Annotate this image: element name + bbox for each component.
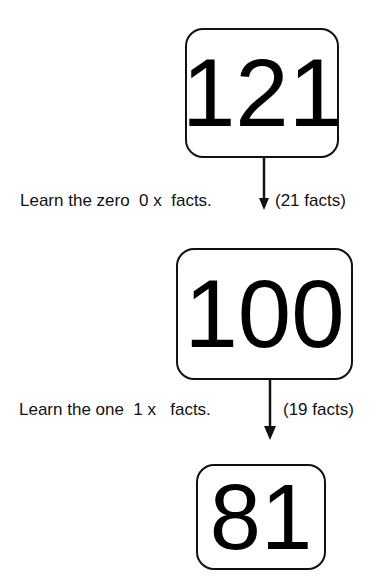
step-1-label: Learn the zero 0 x facts. [20,191,212,211]
count-box-81: 81 [196,464,326,570]
count-value: 121 [182,45,342,141]
arrow-1 [259,157,269,210]
count-box-100: 100 [176,248,353,380]
count-box-121: 121 [185,28,339,158]
arrow-2 [264,380,276,440]
count-value: 81 [210,471,312,563]
step-2-count: (19 facts) [283,400,354,420]
step-2-label: Learn the one 1 x facts. [19,400,211,420]
count-value: 100 [184,266,344,362]
step-1-count: (21 facts) [275,191,346,211]
